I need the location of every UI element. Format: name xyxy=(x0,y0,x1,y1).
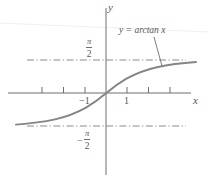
two-denominator: 2 xyxy=(86,49,92,60)
x-tick-label-one: 1 xyxy=(124,96,129,106)
arctan-figure: y x −1 1 π 2 − π 2 y = arctan x xyxy=(0,0,208,188)
y-tick-label-pi-over-two: π 2 xyxy=(86,37,92,59)
y-axis-label: y xyxy=(108,2,113,13)
two-denominator: 2 xyxy=(84,141,90,152)
plot-canvas xyxy=(0,0,208,188)
curve-equation-label: y = arctan x xyxy=(119,26,165,36)
pi-numerator: π xyxy=(84,129,90,139)
fraction-bar xyxy=(84,139,90,140)
minus-sign: − xyxy=(77,136,83,146)
fraction-bar xyxy=(86,47,92,48)
x-axis-label: x xyxy=(193,95,198,106)
pi-numerator: π xyxy=(86,37,92,47)
label-leader-line xyxy=(154,37,162,66)
x-tick-label-neg-one: −1 xyxy=(79,96,90,106)
scan-artifact-line xyxy=(0,23,208,32)
y-tick-label-neg-pi-over-two: − π 2 xyxy=(84,129,90,151)
